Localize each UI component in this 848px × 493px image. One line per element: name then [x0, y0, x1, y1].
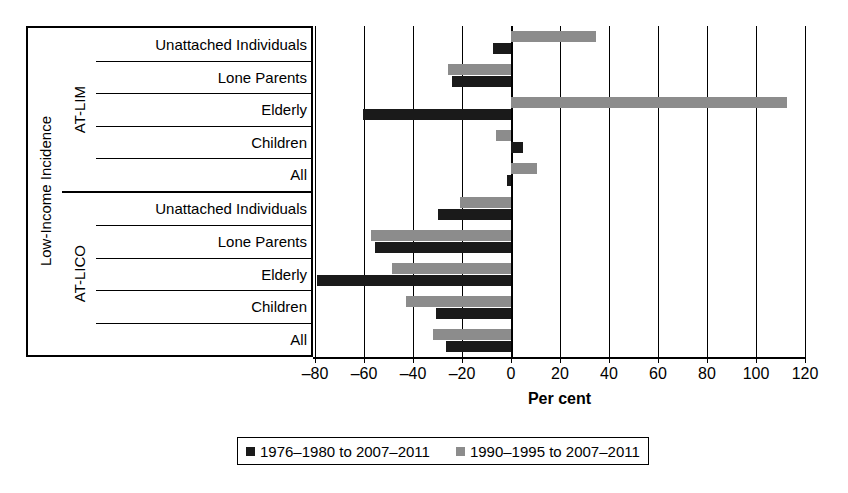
- gridline: [560, 26, 561, 357]
- category-list-at-lim: Unattached Individuals Lone Parents Elde…: [96, 28, 311, 191]
- bar: [496, 130, 511, 141]
- legend-swatch-icon: [456, 447, 465, 456]
- x-axis-tick: [609, 357, 610, 363]
- bar: [452, 76, 511, 87]
- x-axis-tick-label: 120: [775, 365, 835, 383]
- bar: [493, 43, 511, 54]
- group-label-at-lico: AT-LICO: [62, 193, 96, 356]
- x-axis-tick: [413, 357, 414, 363]
- bar: [448, 64, 511, 75]
- x-axis-tick: [707, 357, 708, 363]
- group-label-at-lico-text: AT-LICO: [71, 245, 88, 302]
- bar: [438, 209, 511, 220]
- category-row: Lone Parents: [96, 225, 311, 258]
- category-row: All: [96, 323, 311, 356]
- group-label-at-lim: AT-LIM: [62, 28, 96, 191]
- gridline: [413, 26, 414, 357]
- bar: [511, 31, 596, 42]
- category-label-panel: Low-Income Incidence AT-LIM Unattached I…: [26, 26, 313, 357]
- bar: [507, 175, 511, 186]
- bar: [511, 163, 537, 174]
- legend-label: 1990–1995 to 2007–2011: [470, 443, 640, 460]
- group-column: AT-LIM Unattached Individuals Lone Paren…: [62, 28, 311, 355]
- group-block-at-lim: AT-LIM Unattached Individuals Lone Paren…: [62, 28, 311, 191]
- legend-item-series-1: 1976–1980 to 2007–2011: [246, 443, 430, 460]
- y-axis-title-text: Low-Income Incidence: [37, 116, 54, 266]
- bar: [511, 97, 787, 108]
- gridline: [756, 26, 757, 357]
- gridline: [707, 26, 708, 357]
- gridline: [805, 26, 806, 357]
- legend-label: 1976–1980 to 2007–2011: [260, 443, 430, 460]
- chart-legend: 1976–1980 to 2007–2011 1990–1995 to 2007…: [237, 437, 649, 465]
- category-row: Elderly: [96, 258, 311, 291]
- x-axis-tick: [462, 357, 463, 363]
- category-row: Unattached Individuals: [96, 28, 311, 61]
- legend-swatch-icon: [246, 447, 255, 456]
- gridline: [609, 26, 610, 357]
- x-axis-tick: [364, 357, 365, 363]
- zero-axis-line: [511, 26, 513, 357]
- gridline: [364, 26, 365, 357]
- category-row: Unattached Individuals: [96, 193, 311, 226]
- gridline: [658, 26, 659, 357]
- category-row: Children: [96, 290, 311, 323]
- bar: [375, 242, 511, 253]
- x-axis-tick: [315, 357, 316, 363]
- chart-figure: Low-Income Incidence AT-LIM Unattached I…: [0, 0, 848, 493]
- x-axis-tick: [511, 357, 512, 363]
- x-axis-tick: [658, 357, 659, 363]
- gridline: [315, 26, 316, 357]
- y-axis-title: Low-Income Incidence: [28, 28, 62, 355]
- bar: [460, 197, 511, 208]
- bar: [363, 109, 511, 120]
- bar: [392, 263, 511, 274]
- bar: [511, 142, 523, 153]
- x-axis-tick: [805, 357, 806, 363]
- category-row: Elderly: [96, 93, 311, 126]
- category-row: All: [96, 158, 311, 191]
- category-list-at-lico: Unattached Individuals Lone Parents Elde…: [96, 193, 311, 356]
- bar: [371, 230, 511, 241]
- category-row: Children: [96, 126, 311, 159]
- x-axis-label: Per cent: [313, 390, 806, 408]
- bar: [433, 329, 511, 340]
- bar: [317, 275, 511, 286]
- bar: [436, 308, 511, 319]
- group-block-at-lico: AT-LICO Unattached Individuals Lone Pare…: [62, 191, 311, 356]
- category-row: Lone Parents: [96, 61, 311, 94]
- group-label-at-lim-text: AT-LIM: [71, 86, 88, 133]
- x-axis-tick: [756, 357, 757, 363]
- bar: [406, 296, 511, 307]
- legend-item-series-2: 1990–1995 to 2007–2011: [456, 443, 640, 460]
- bar: [446, 341, 511, 352]
- x-axis-tick: [560, 357, 561, 363]
- plot-area: [313, 26, 806, 357]
